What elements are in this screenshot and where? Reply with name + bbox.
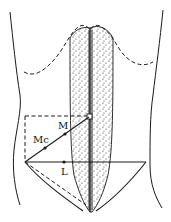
label-mc: Mc [33,134,49,145]
label-m: M [58,120,68,131]
abdominal-diagram: Mc M L [0,0,171,222]
body-outline-right [150,10,163,208]
rectus-sheath-left [70,27,90,212]
point-mc [43,146,46,149]
point-l [62,160,65,163]
body-outline-left [10,12,20,205]
label-l: L [61,166,68,177]
point-m [63,132,66,135]
rectus-sheath-right [90,26,113,212]
